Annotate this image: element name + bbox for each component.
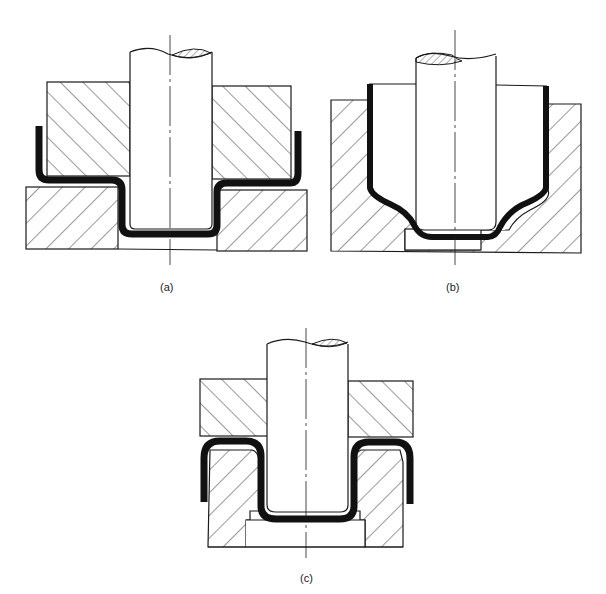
- blank-holder-right: [348, 381, 413, 437]
- die-base-line: [118, 249, 217, 250]
- panel-b-label: (b): [446, 281, 459, 293]
- panel-c: [200, 328, 413, 558]
- blank-holder-right: [212, 86, 291, 179]
- die-right: [217, 190, 307, 251]
- panel-c-label: (c): [300, 572, 313, 584]
- die-left: [26, 187, 118, 249]
- punch: [130, 48, 212, 229]
- punch: [267, 339, 348, 512]
- punch: [416, 53, 496, 230]
- panel-b: [331, 30, 581, 265]
- base-pad: [246, 520, 365, 547]
- panel-a: [26, 35, 307, 265]
- panel-a-label: (a): [160, 281, 173, 293]
- blank-holder-left: [200, 379, 268, 436]
- redrawing-diagram: [0, 0, 606, 594]
- blank-holder-left: [47, 82, 130, 176]
